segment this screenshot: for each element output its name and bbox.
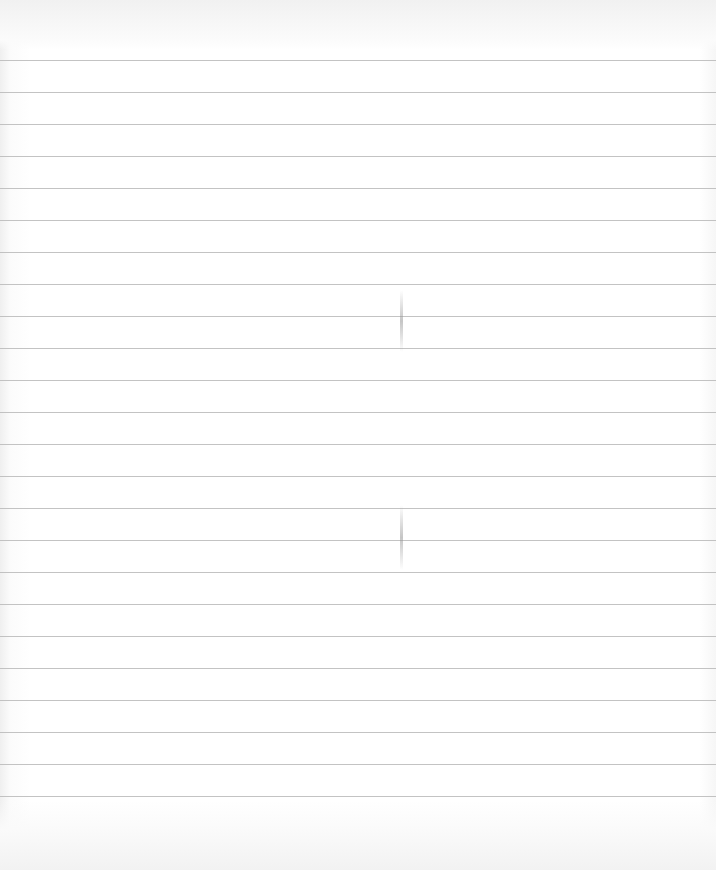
- ruled-line: [0, 316, 716, 317]
- ruled-line: [0, 220, 716, 221]
- ruled-line: [0, 348, 716, 349]
- ruled-line: [0, 508, 716, 509]
- ruled-line: [0, 476, 716, 477]
- ruled-line: [0, 700, 716, 701]
- ruled-line: [0, 572, 716, 573]
- ruled-line: [0, 540, 716, 541]
- ruled-line: [0, 188, 716, 189]
- fold-smudge-upper: [400, 290, 403, 352]
- ruled-line: [0, 444, 716, 445]
- ruled-line: [0, 284, 716, 285]
- ruled-line: [0, 796, 716, 797]
- ruled-line: [0, 764, 716, 765]
- ruled-line: [0, 156, 716, 157]
- ruled-line: [0, 124, 716, 125]
- ruled-line: [0, 604, 716, 605]
- fold-smudge-lower: [400, 505, 403, 570]
- ruled-line: [0, 412, 716, 413]
- ruled-line: [0, 668, 716, 669]
- ruled-line: [0, 252, 716, 253]
- ruled-paper-page: [0, 0, 716, 870]
- ruled-line: [0, 60, 716, 61]
- ruled-line: [0, 732, 716, 733]
- ruled-line: [0, 380, 716, 381]
- ruled-line: [0, 92, 716, 93]
- ruled-line: [0, 636, 716, 637]
